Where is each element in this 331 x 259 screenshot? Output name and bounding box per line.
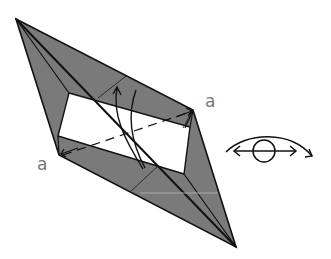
point-label-a-left: a: [37, 154, 47, 174]
origami-diagram: a a: [0, 0, 331, 259]
point-label-a-right: a: [205, 91, 215, 111]
eye-rotate-icon: [226, 137, 312, 162]
main-diagonal-crease: [16, 19, 236, 247]
